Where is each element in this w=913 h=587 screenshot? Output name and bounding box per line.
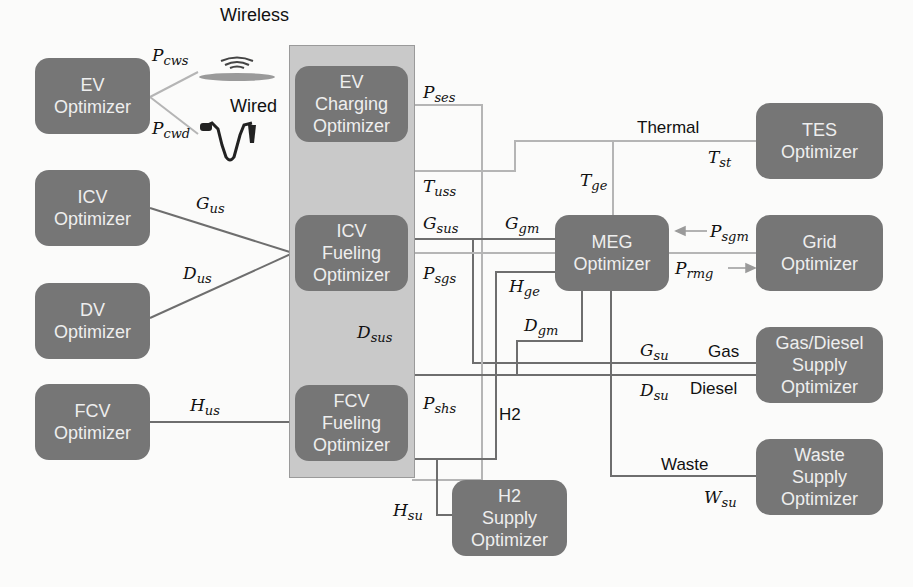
node-label: Optimizer [54, 321, 131, 343]
gas-diesel-supply-optimizer[interactable]: Gas/Diesel Supply Optimizer [756, 327, 883, 403]
node-label: H2 [498, 485, 521, 507]
node-label: Optimizer [313, 115, 390, 137]
meg-optimizer[interactable]: MEG Optimizer [555, 215, 669, 291]
var-d-us: Dus [183, 263, 212, 286]
ev-charging-optimizer[interactable]: EV Charging Optimizer [295, 66, 408, 142]
tes-optimizer[interactable]: TES Optimizer [756, 103, 883, 179]
thermal-label: Thermal [637, 118, 699, 138]
var-d-sus: Dsus [357, 322, 392, 345]
node-label: FCV [75, 400, 111, 422]
var-h-su: Hsu [393, 500, 423, 523]
node-label: FCV [334, 390, 370, 412]
node-label: Optimizer [54, 96, 131, 118]
node-label: Optimizer [54, 422, 131, 444]
node-label: Optimizer [781, 253, 858, 275]
node-label: Supply [482, 507, 537, 529]
node-label: Fueling [322, 242, 381, 264]
node-label: Fueling [322, 412, 381, 434]
icv-fueling-optimizer[interactable]: ICV Fueling Optimizer [295, 215, 408, 291]
node-label: Charging [315, 93, 388, 115]
h-su-line [437, 459, 452, 515]
charging-plug-cable-icon [200, 115, 260, 165]
diesel-label: Diesel [690, 379, 737, 399]
p-cws-line [150, 72, 198, 97]
node-label: ICV [77, 186, 107, 208]
node-label: ICV [336, 220, 366, 242]
var-p-cws: Pcws [152, 45, 189, 68]
node-label: EV [80, 74, 104, 96]
node-label: Optimizer [54, 208, 131, 230]
fcv-optimizer[interactable]: FCV Optimizer [35, 384, 150, 460]
node-label: Optimizer [313, 434, 390, 456]
var-t-st: Tst [708, 147, 731, 170]
node-label: EV [339, 71, 363, 93]
var-p-cwd: Pcwd [152, 118, 190, 141]
p-ses-line [408, 105, 482, 480]
h2-line [412, 272, 555, 459]
wireless-charging-pad-icon [197, 54, 277, 84]
gas-label: Gas [708, 342, 739, 362]
var-p-sgs: Psgs [423, 263, 456, 286]
var-t-ge: Tge [580, 170, 607, 193]
node-label: DV [80, 299, 105, 321]
d-us-line [150, 253, 293, 318]
node-label: TES [802, 119, 837, 141]
node-label: Supply [792, 466, 847, 488]
var-p-shs: Pshs [423, 393, 456, 416]
h2-label: H2 [499, 405, 521, 425]
var-p-sgm: Psgm [710, 221, 749, 244]
icv-optimizer[interactable]: ICV Optimizer [35, 170, 150, 246]
node-label: Optimizer [781, 488, 858, 510]
node-label: Optimizer [781, 141, 858, 163]
var-g-gm: Ggm [505, 213, 539, 236]
var-g-su: Gsu [640, 340, 669, 363]
var-p-rmg: Prmg [675, 258, 713, 281]
var-w-su: Wsu [704, 487, 737, 510]
var-t-uss: Tuss [423, 176, 456, 199]
arrow-right-icon [746, 264, 755, 272]
node-label: Optimizer [313, 264, 390, 286]
var-g-us: Gus [196, 193, 225, 216]
var-g-sus: Gsus [423, 213, 458, 236]
node-label: Gas/Diesel [775, 332, 863, 354]
wireless-label: Wireless [220, 5, 289, 26]
var-d-gm: Dgm [524, 315, 558, 338]
node-label: Supply [792, 354, 847, 376]
var-h-us: Hus [190, 395, 220, 418]
var-d-su: Dsu [640, 380, 669, 403]
arrow-left-icon [676, 227, 685, 235]
h2-supply-optimizer[interactable]: H2 Supply Optimizer [452, 480, 567, 556]
node-label: Grid [802, 231, 836, 253]
grid-optimizer[interactable]: Grid Optimizer [756, 215, 883, 291]
var-p-ses: Pses [423, 82, 456, 105]
node-label: Optimizer [573, 253, 650, 275]
dv-optimizer[interactable]: DV Optimizer [35, 283, 150, 359]
energy-system-diagram: EV Optimizer ICV Optimizer DV Optimizer … [0, 0, 913, 587]
ev-optimizer[interactable]: EV Optimizer [35, 58, 150, 134]
node-label: Optimizer [471, 529, 548, 551]
waste-supply-optimizer[interactable]: Waste Supply Optimizer [756, 439, 883, 515]
waste-label: Waste [661, 455, 709, 475]
wired-label: Wired [230, 96, 277, 117]
node-label: Waste [794, 444, 844, 466]
node-label: MEG [591, 231, 632, 253]
fcv-fueling-optimizer[interactable]: FCV Fueling Optimizer [295, 385, 408, 461]
var-h-ge: Hge [509, 276, 540, 299]
node-label: Optimizer [781, 376, 858, 398]
